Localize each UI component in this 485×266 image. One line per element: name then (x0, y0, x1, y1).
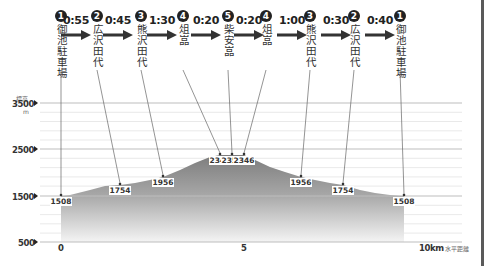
x-tick-5: 5 (241, 243, 247, 253)
x-axis-title: 水平距離 (445, 244, 469, 253)
svg-text:1508: 1508 (394, 197, 415, 206)
svg-text:1754: 1754 (110, 186, 131, 195)
y-tick-1500: 1500 (12, 192, 34, 202)
svg-text:1754: 1754 (333, 186, 354, 195)
svg-text:1956: 1956 (291, 178, 312, 187)
x-tick-0: 0 (58, 243, 64, 253)
svg-text:1956: 1956 (153, 178, 174, 187)
elev-label: 1508 (51, 197, 72, 206)
y-tick-500: 500 (18, 238, 35, 248)
y-axis-unit: m (23, 108, 29, 115)
svg-text:2346: 2346 (234, 156, 255, 165)
elevation-profile-chart: 1508 1754 1956 2346 2356 2346 1956 1754 … (0, 0, 485, 266)
elevation-area (61, 155, 404, 242)
y-tick-2500: 2500 (12, 145, 34, 155)
x-tick-10km: 10km (419, 243, 444, 253)
